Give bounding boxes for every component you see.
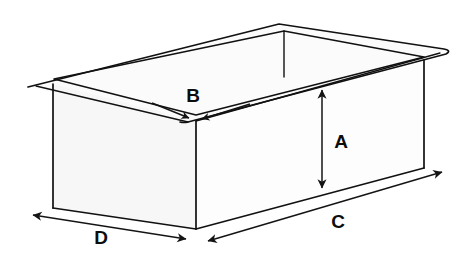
dimension-label-C: C [331,211,345,232]
diagram-canvas: A B C D [0,0,464,265]
box-faces [28,24,447,229]
box-dimension-diagram: A B C D [0,0,464,265]
dimension-label-D: D [94,227,108,248]
dimension-label-A: A [334,131,348,152]
dimension-label-B: B [186,85,200,106]
